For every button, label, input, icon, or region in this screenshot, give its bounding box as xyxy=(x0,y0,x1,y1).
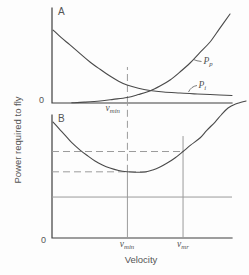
panel-b-vmr-tick-label: vmr xyxy=(177,239,189,250)
panel-b-axes xyxy=(52,115,232,238)
power-velocity-figure: A 0 Pp Pi vmin B 0 vmin vmr Velocity Pow… xyxy=(0,0,249,275)
panel-b-curves xyxy=(53,101,246,172)
panel-b-letter: B xyxy=(58,113,65,124)
panel-a-vmin-tick-label: vmin xyxy=(106,103,121,114)
panel-b-guides xyxy=(52,104,232,238)
panel-a-letter: A xyxy=(58,6,65,17)
x-axis-title: Velocity xyxy=(125,254,158,265)
panel-a-origin-label: 0 xyxy=(39,95,44,105)
panel-b-origin-label: 0 xyxy=(41,235,46,245)
total-power-curve xyxy=(53,101,246,172)
y-axis-title: Power required to fly xyxy=(12,96,23,183)
pi-curve-label: Pi xyxy=(198,80,207,91)
panel-a: A 0 Pp Pi vmin xyxy=(39,6,232,114)
panel-b-vmin-tick-label: vmin xyxy=(120,239,135,250)
pi-label-leader xyxy=(189,86,198,93)
pp-curve-label: Pp xyxy=(203,56,214,67)
panel-b: B 0 vmin vmr xyxy=(41,101,246,250)
figure-canvas: A 0 Pp Pi vmin B 0 vmin vmr Velocity Pow… xyxy=(0,0,249,275)
pp-label-leader xyxy=(194,60,202,62)
